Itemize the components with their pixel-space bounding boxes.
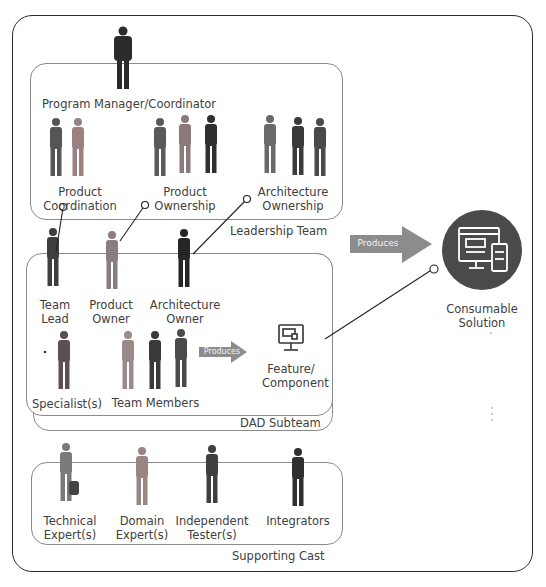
team-lead-label: Team Lead (35, 298, 75, 326)
program-manager-label: Program Manager/Coordinator (36, 97, 222, 111)
technical-expert-figure (60, 443, 79, 501)
architecture-ownership-label: Architecture Ownership (248, 185, 338, 213)
technical-expert-label: Technical Expert(s) (38, 514, 102, 542)
program-manager-figure (114, 27, 132, 90)
integrators-label: Integrators (262, 514, 334, 528)
produces-large-label: Produces (352, 238, 404, 248)
product-coordination-figures (50, 118, 84, 176)
domain-expert-figure (136, 447, 148, 505)
feature-component-label: Feature/ Component (262, 362, 320, 390)
consumable-solution-label: Consumable Solution (438, 302, 526, 330)
product-ownership-label: Product Ownership (140, 185, 230, 213)
independent-tester-figure (206, 445, 218, 503)
product-owner-label: Product Owner (82, 298, 140, 326)
team-lead-figure (47, 228, 59, 286)
team-members-label: Team Members (108, 396, 203, 410)
product-coordination-label: Product Coordination (30, 185, 130, 213)
specialists-label: Specialist(s) (32, 397, 102, 411)
feature-component-icon (279, 325, 303, 350)
architecture-ownership-figures (264, 115, 326, 176)
produces-small-label: Produces (200, 347, 244, 356)
integrator-figure (292, 448, 304, 506)
independent-tester-label: Independent Tester(s) (172, 514, 252, 542)
diagram-graphics (0, 0, 546, 587)
specialist-figure (58, 331, 70, 389)
product-ownership-figures (154, 115, 217, 176)
domain-expert-label: Domain Expert(s) (112, 514, 172, 542)
product-owner-figure (106, 231, 118, 289)
architecture-owner-figure (178, 229, 190, 287)
architecture-owner-label: Architecture Owner (145, 298, 225, 326)
consumable-solution-icon (442, 210, 522, 290)
team-member-figures (122, 329, 187, 389)
